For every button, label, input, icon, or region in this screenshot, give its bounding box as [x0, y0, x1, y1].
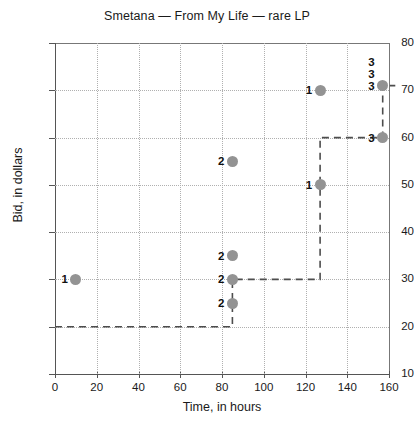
x-tick-label: 0 [35, 381, 75, 393]
data-point[interactable] [315, 179, 326, 190]
data-point-label: 1 [306, 84, 312, 96]
data-point-label: 3 [368, 80, 374, 92]
data-point-label: 1 [306, 179, 312, 191]
data-point[interactable] [315, 85, 326, 96]
x-tick [389, 371, 390, 378]
x-tick-label: 60 [160, 381, 200, 393]
scatter-chart: Smetana — From My Life — rare LP Bid, in… [0, 0, 414, 440]
x-tick-label: 120 [286, 381, 326, 393]
x-tick-label: 140 [327, 381, 367, 393]
x-tick-label: 20 [77, 381, 117, 393]
data-point-label: 3 [368, 68, 374, 80]
data-point-label: 3 [368, 132, 374, 144]
x-tick-label: 160 [369, 381, 409, 393]
x-tick-label: 100 [244, 381, 284, 393]
data-point[interactable] [227, 156, 238, 167]
data-point-label: 2 [218, 297, 224, 309]
data-point[interactable] [227, 274, 238, 285]
data-point-label: 2 [218, 250, 224, 262]
step-line [55, 43, 389, 374]
data-point[interactable] [227, 298, 238, 309]
x-axis-label: Time, in hours [55, 400, 389, 414]
x-tick-label: 80 [202, 381, 242, 393]
data-point-label: 3 [368, 56, 374, 68]
data-point-label: 2 [218, 155, 224, 167]
chart-title: Smetana — From My Life — rare LP [0, 9, 414, 23]
y-axis-label: Bid, in dollars [11, 105, 25, 265]
plot-area: 12222113333 [55, 43, 389, 374]
data-point-label: 2 [218, 273, 224, 285]
data-point-label: 1 [61, 273, 67, 285]
x-tick-label: 40 [119, 381, 159, 393]
